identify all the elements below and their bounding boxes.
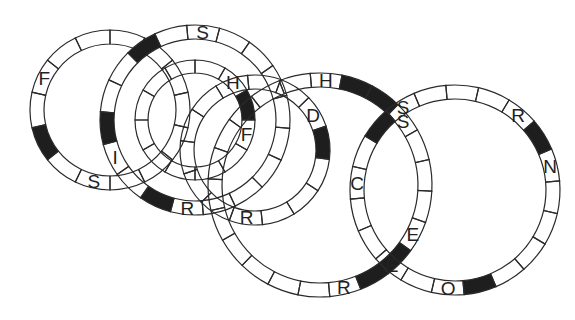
ring-puzzle-diagram: FSSRIHFHSREDRRNOECS [0,0,575,320]
ring-cell[interactable] [135,120,154,150]
shaded-cell[interactable] [32,125,58,160]
ring-cell[interactable] [298,281,330,297]
cell-letter: I [113,147,118,168]
ring-cell[interactable] [75,30,110,51]
cell-letter: R [337,277,351,298]
cell-letter: C [350,173,364,194]
cell-letter: S [397,97,410,118]
cell-letter: D [306,105,320,126]
cell-letter: R [511,105,525,126]
cell-letter: F [241,124,253,145]
ring-cell[interactable] [273,95,290,128]
ring-cell[interactable] [30,92,46,128]
shaded-cell[interactable] [313,126,330,159]
ring-cell[interactable] [491,259,524,287]
cell-letter: S [87,171,100,192]
shaded-cell[interactable] [463,274,496,295]
ring-cell[interactable] [446,85,479,101]
ring-cell[interactable] [412,190,431,222]
ring-cell[interactable] [261,202,294,225]
ring-cell[interactable] [358,226,386,259]
rings-canvas: FSSRIHFHSREDRRNOECS [0,0,575,320]
ring-cell[interactable] [405,130,429,163]
ring-cell[interactable] [211,207,235,240]
cell-letter: H [319,70,333,91]
cell-letter: E [407,224,420,245]
ring-cell[interactable] [208,179,225,211]
ring-cell[interactable] [174,92,190,128]
ring-cell[interactable] [544,181,560,214]
ring-cell[interactable] [415,159,432,191]
ring-cell[interactable] [155,25,188,46]
ring-cell[interactable] [229,177,262,206]
cell-letter: N [543,156,557,177]
cell-letter: E [386,255,399,276]
cell-letter: S [196,22,209,43]
ring-cell[interactable] [279,73,311,93]
shaded-cell[interactable] [100,112,117,145]
cell-letter: R [240,207,254,228]
ring-cell[interactable] [47,38,81,69]
cell-letter: O [441,278,456,299]
shaded-cell[interactable] [236,90,255,120]
shaded-cell[interactable] [524,121,552,154]
cell-letter: H [226,72,240,93]
ring-cell[interactable] [414,85,447,106]
ring-cell[interactable] [195,60,225,79]
ring-cell[interactable] [350,198,371,231]
ring-1: FS [30,30,190,192]
ring-2: SRI [100,22,290,218]
cell-letter: R [180,198,194,219]
cell-letter: F [38,68,50,89]
